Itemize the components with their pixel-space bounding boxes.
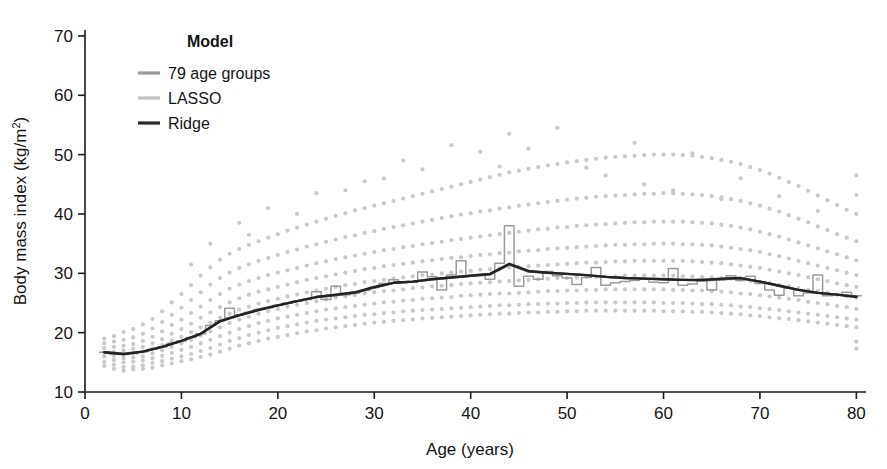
scatter-point: [276, 271, 280, 275]
scatter-point: [787, 256, 791, 260]
scatter-point: [160, 354, 164, 358]
scatter-point: [517, 278, 521, 282]
scatter-point: [594, 288, 598, 292]
scatter-point: [459, 294, 463, 298]
scatter-point: [632, 154, 636, 158]
scatter-point: [661, 220, 665, 224]
scatter-point: [391, 247, 395, 251]
scatter-point: [488, 312, 492, 316]
scatter-point: [613, 300, 617, 304]
scatter-point: [449, 306, 453, 310]
scatter-point: [632, 192, 636, 196]
scatter-point: [420, 308, 424, 312]
scatter-point: [777, 254, 781, 258]
scatter-point: [642, 182, 646, 186]
scatter-point: [391, 300, 395, 304]
scatter-point: [825, 198, 829, 202]
scatter-point: [507, 231, 511, 235]
scatter-point: [825, 314, 829, 318]
scatter-point: [208, 298, 212, 302]
scatter-point: [314, 261, 318, 265]
scatter-point: [256, 321, 260, 325]
scatter-point: [594, 309, 598, 313]
scatter-point: [459, 314, 463, 318]
scatter-point: [430, 241, 434, 245]
scatter-point: [401, 299, 405, 303]
scatter-point: [498, 164, 502, 168]
scatter-point: [295, 303, 299, 307]
scatter-point: [729, 303, 733, 307]
x-tick-label: 10: [172, 404, 191, 423]
scatter-point: [247, 324, 251, 328]
scatter-point: [382, 227, 386, 231]
scatter-point: [121, 360, 125, 364]
scatter-point: [536, 165, 540, 169]
scatter-point: [363, 206, 367, 210]
scatter-point: [112, 363, 116, 367]
scatter-point: [237, 221, 241, 225]
scatter-point: [305, 311, 309, 315]
bmi-age-figure: 10203040506070 01020304050607080 Age (ye…: [0, 0, 887, 469]
scatter-point: [748, 292, 752, 296]
scatter-point: [661, 153, 665, 157]
scatter-point: [131, 355, 135, 359]
scatter-point: [642, 300, 646, 304]
scatter-point: [199, 355, 203, 359]
scatter-point: [546, 163, 550, 167]
scatter-point: [372, 279, 376, 283]
scatter-point: [604, 287, 608, 291]
scatter-point: [507, 170, 511, 174]
scatter-point: [189, 311, 193, 315]
scatter-point: [652, 309, 656, 313]
scatter-point: [652, 287, 656, 291]
scatter-point: [710, 194, 714, 198]
scatter-point: [266, 319, 270, 323]
scatter-point: [584, 261, 588, 265]
scatter-point: [854, 325, 858, 329]
scatter-point: [208, 346, 212, 350]
scatter-point: [623, 309, 627, 313]
scatter-point: [247, 262, 251, 266]
scatter-point: [295, 322, 299, 326]
scatter-point: [690, 151, 694, 155]
scatter-point: [652, 274, 656, 278]
scatter-point: [661, 259, 665, 263]
scatter-point: [700, 243, 704, 247]
scatter-point: [382, 320, 386, 324]
scatter-point: [324, 259, 328, 263]
scatter-point: [449, 143, 453, 147]
scatter-point: [642, 153, 646, 157]
scatter-point: [150, 351, 154, 355]
scatter-point: [854, 173, 858, 177]
scatter-point: [767, 232, 771, 236]
scatter-point: [594, 244, 598, 248]
scatter-point: [816, 277, 820, 281]
scatter-point: [854, 258, 858, 262]
scatter-point: [835, 232, 839, 236]
scatter-point: [199, 274, 203, 278]
scatter-point: [555, 310, 559, 314]
scatter-point: [334, 316, 338, 320]
scatter-point: [825, 266, 829, 270]
scatter-point: [536, 227, 540, 231]
scatter-point: [623, 287, 627, 291]
scatter-point: [295, 293, 299, 297]
scatter-point: [632, 259, 636, 263]
scatter-point: [391, 288, 395, 292]
scatter-point: [594, 261, 598, 265]
scatter-point: [517, 249, 521, 253]
scatter-point: [604, 260, 608, 264]
scatter-point: [526, 302, 530, 306]
scatter-point: [536, 290, 540, 294]
scatter-point: [170, 351, 174, 355]
scatter-point: [835, 268, 839, 272]
scatter-point: [642, 309, 646, 313]
scatter-point: [324, 217, 328, 221]
scatter-point: [112, 358, 116, 362]
scatter-point: [816, 209, 820, 213]
scatter-point: [189, 298, 193, 302]
scatter-point: [507, 312, 511, 316]
scatter-point: [420, 316, 424, 320]
scatter-point: [382, 300, 386, 304]
scatter-point: [411, 244, 415, 248]
